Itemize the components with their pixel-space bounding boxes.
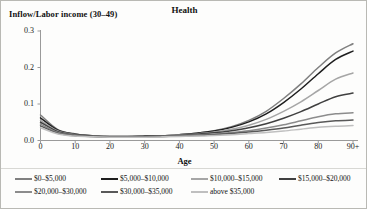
- legend-label: $10,000–$15,000: [210, 173, 263, 185]
- series-lines: [41, 44, 354, 137]
- legend-item[interactable]: above $35,000: [191, 186, 254, 198]
- legend-swatch: [101, 191, 118, 193]
- legend-row: $0–$5,000$5,000–$10,000$10,000–$15,000$1…: [1, 173, 367, 185]
- legend-item[interactable]: $0–$5,000: [15, 173, 66, 185]
- legend-item[interactable]: $30,000–$35,000: [101, 186, 173, 198]
- y-axis-tick-label: 0.3: [8, 26, 34, 35]
- legend-swatch: [191, 191, 208, 193]
- y-axis-tick-label: 0.1: [8, 99, 34, 108]
- legend-row: $20,000–$30,000$30,000–$35,000above $35,…: [1, 186, 367, 198]
- x-axis-label: Age: [1, 156, 367, 166]
- legend-label: $30,000–$35,000: [120, 186, 173, 198]
- legend-swatch: [15, 191, 32, 193]
- x-axis-tick-label: 10: [60, 142, 90, 151]
- legend-label: $20,000–$30,000: [34, 186, 87, 198]
- x-axis-tick-label: 80: [303, 142, 333, 151]
- y-axis-tick-label: 0.2: [8, 63, 34, 72]
- chart-legend: $0–$5,000$5,000–$10,000$10,000–$15,000$1…: [1, 173, 367, 207]
- x-axis-tick-label: 40: [164, 142, 194, 151]
- legend-label: $15,000–$20,000: [298, 173, 351, 185]
- x-axis-tick-label: 20: [95, 142, 125, 151]
- series-line: [41, 73, 354, 137]
- chart-figure: Health Inflow/Labor income (30–49) 0.00.…: [0, 0, 367, 209]
- legend-item[interactable]: $5,000–$10,000: [101, 173, 169, 185]
- legend-label: above $35,000: [210, 186, 254, 198]
- legend-item[interactable]: $10,000–$15,000: [191, 173, 263, 185]
- legend-item[interactable]: $15,000–$20,000: [279, 173, 351, 185]
- legend-swatch: [15, 178, 32, 180]
- x-axis-tick-label: 30: [130, 142, 160, 151]
- x-axis-tick-label: 60: [234, 142, 264, 151]
- x-axis-tick-label: 90+: [338, 142, 367, 151]
- series-line: [41, 93, 354, 137]
- legend-label: $0–$5,000: [34, 173, 66, 185]
- x-axis-tick-label: 50: [199, 142, 229, 151]
- legend-label: $5,000–$10,000: [120, 173, 169, 185]
- series-line: [41, 44, 354, 137]
- x-axis-tick-label: 70: [269, 142, 299, 151]
- legend-swatch: [279, 178, 296, 180]
- legend-swatch: [101, 178, 118, 180]
- x-axis-tick-label: 0: [26, 142, 56, 151]
- legend-item[interactable]: $20,000–$30,000: [15, 186, 87, 198]
- legend-swatch: [191, 178, 208, 180]
- legend-divider: [1, 168, 367, 169]
